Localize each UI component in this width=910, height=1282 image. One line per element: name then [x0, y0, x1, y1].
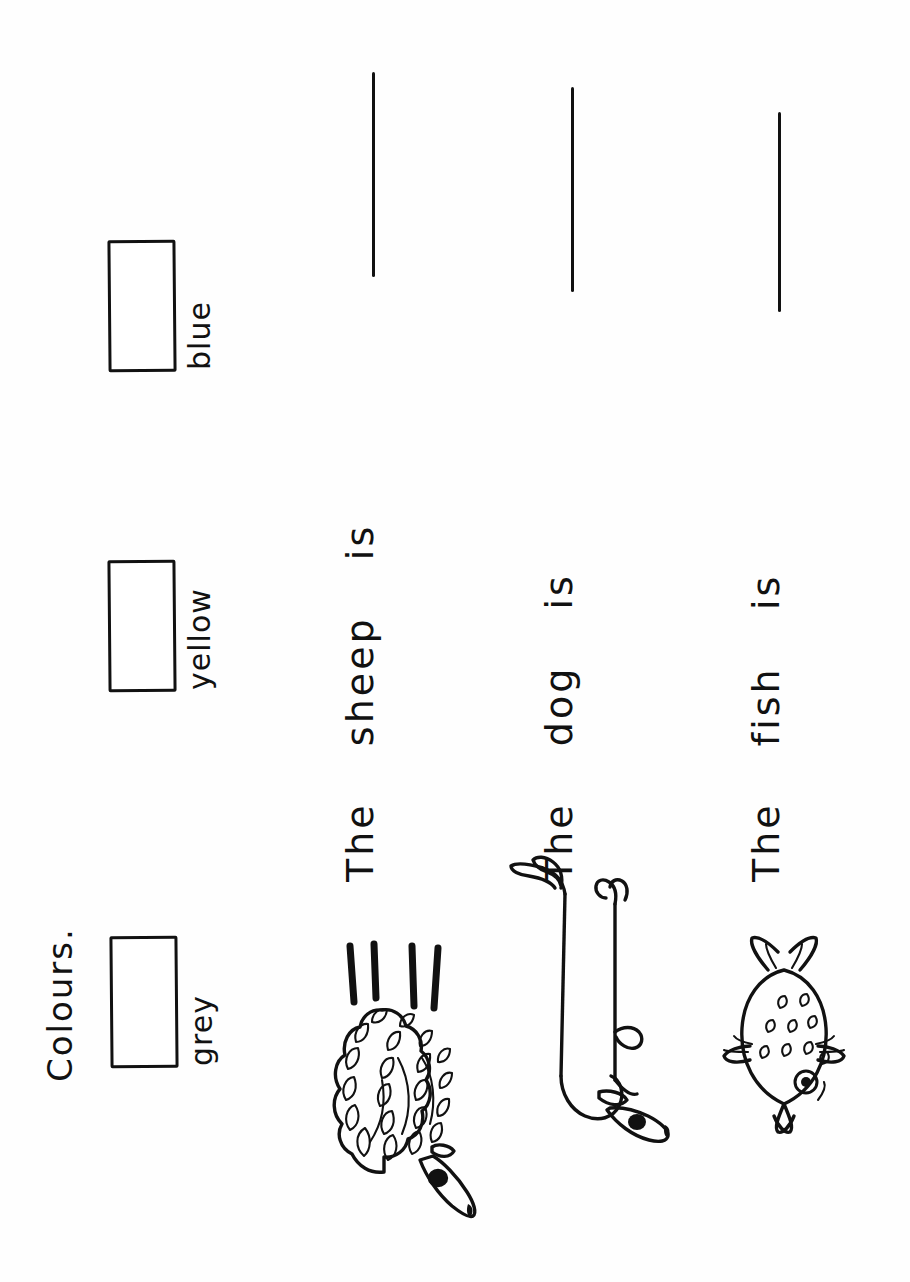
- colour-label-yellow: yellow: [182, 560, 217, 692]
- sentence-sheep: The sheep is: [338, 524, 382, 882]
- sentence-sheep-subject: sheep: [338, 616, 382, 746]
- question-row-fish: The fish is: [690, 0, 890, 1282]
- sentence-sheep-article: The: [338, 802, 382, 882]
- colour-label-blue: blue: [182, 240, 217, 372]
- answer-blank-dog[interactable]: [571, 87, 574, 292]
- sentence-sheep-verb: is: [338, 524, 382, 560]
- sheep-drawing: [292, 944, 477, 1234]
- colour-box-grey[interactable]: [109, 936, 178, 1069]
- fish-drawing: [710, 924, 860, 1164]
- colour-box-yellow[interactable]: [107, 560, 176, 693]
- colour-key-item-blue[interactable]: blue: [108, 240, 217, 372]
- page-title: Colours.: [40, 927, 80, 1082]
- question-row-dog: The dog is: [485, 0, 685, 1282]
- sentence-dog-article: The: [537, 802, 581, 882]
- colour-label-grey: grey: [184, 936, 219, 1068]
- worksheet-page: Colours. grey yellow blue: [0, 0, 910, 1282]
- sentence-dog: The dog is: [537, 573, 581, 882]
- sentence-dog-verb: is: [537, 573, 581, 609]
- colour-key-item-grey[interactable]: grey: [110, 936, 219, 1068]
- sentence-fish: The fish is: [744, 574, 788, 882]
- worksheet-canvas: Colours. grey yellow blue: [0, 0, 910, 1282]
- answer-blank-fish[interactable]: [778, 112, 781, 312]
- sentence-fish-verb: is: [744, 574, 788, 610]
- colour-box-blue[interactable]: [107, 240, 176, 373]
- colour-key-item-yellow[interactable]: yellow: [108, 560, 217, 692]
- sentence-fish-article: The: [744, 802, 788, 882]
- answer-blank-sheep[interactable]: [372, 72, 375, 277]
- question-row-sheep: The sheep is: [280, 0, 490, 1282]
- sentence-dog-subject: dog: [537, 666, 581, 747]
- sentence-fish-subject: fish: [744, 666, 788, 746]
- dog-drawing: [503, 822, 678, 1172]
